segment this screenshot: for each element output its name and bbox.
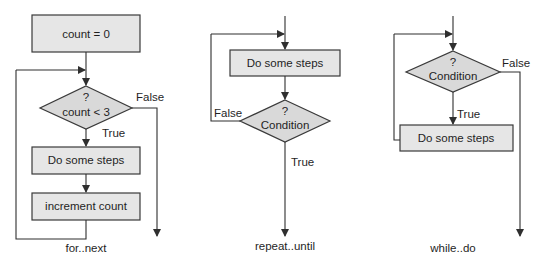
true-label: True xyxy=(102,127,125,139)
decision-text: count < 3 xyxy=(62,106,110,118)
for-next-caption: for..next xyxy=(66,242,108,254)
true-label: True xyxy=(457,108,480,120)
while-do-flowchart: ? Condition False True Do some steps whi… xyxy=(394,16,530,254)
repeat-until-flowchart: Do some steps ? Condition False True rep… xyxy=(211,16,340,252)
do-steps-text: Do some steps xyxy=(48,154,125,166)
decision-question-mark: ? xyxy=(450,56,456,68)
repeat-until-caption: repeat..until xyxy=(255,240,315,252)
init-count-text: count = 0 xyxy=(62,28,110,40)
decision-question-mark: ? xyxy=(83,91,89,103)
while-do-caption: while..do xyxy=(429,242,475,254)
for-next-flowchart: count = 0 ? count < 3 False True Do some… xyxy=(16,15,164,254)
false-exit-arrow xyxy=(500,72,520,236)
decision-question-mark: ? xyxy=(282,105,288,117)
decision-text: Condition xyxy=(261,119,310,131)
false-label: False xyxy=(214,107,242,119)
true-label: True xyxy=(291,156,314,168)
do-steps-text: Do some steps xyxy=(418,132,495,144)
loop-back-line xyxy=(394,34,400,140)
false-label: False xyxy=(502,57,530,69)
do-steps-text: Do some steps xyxy=(247,57,324,69)
increment-count-text: increment count xyxy=(45,200,128,212)
decision-text: Condition xyxy=(429,70,478,82)
loop-flowcharts: count = 0 ? count < 3 False True Do some… xyxy=(0,0,540,266)
false-label: False xyxy=(136,91,164,103)
